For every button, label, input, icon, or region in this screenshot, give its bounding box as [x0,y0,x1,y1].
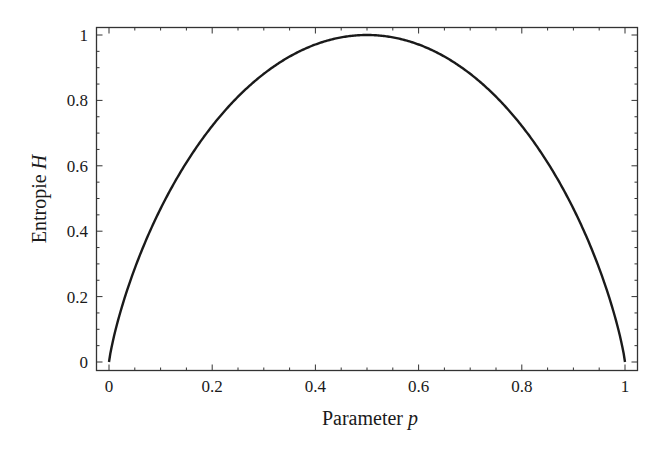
x-tick-label: 0.8 [511,377,532,396]
x-tick-label: 1 [621,377,630,396]
y-tick-label: 0.4 [67,222,89,241]
y-tick-label: 0.8 [67,91,88,110]
x-tick-label: 0.4 [305,377,327,396]
y-tick-labels: 00.20.40.60.81 [67,26,89,372]
entropy-curve [109,35,625,362]
y-tick-label: 0 [80,353,89,372]
y-tick-label: 0.2 [67,288,88,307]
y-tick-label: 0.6 [67,157,88,176]
plot-frame [97,28,638,371]
axis-ticks [97,28,638,371]
x-tick-label: 0.6 [408,377,429,396]
y-axis-title: Entropie H [28,153,51,243]
x-axis-title: Parameter p [322,407,418,430]
x-tick-labels: 00.20.40.60.81 [105,377,630,396]
entropy-chart: 00.20.40.60.81 00.20.40.60.81 Parameter … [0,0,667,456]
y-tick-label: 1 [80,26,89,45]
x-tick-label: 0.2 [202,377,223,396]
x-tick-label: 0 [105,377,114,396]
